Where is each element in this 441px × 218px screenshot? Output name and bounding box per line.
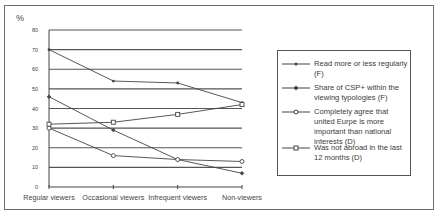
y-tick-label: 30 (32, 125, 38, 131)
legend-label: Share of CSP+ within the viewing typolog… (314, 83, 410, 103)
legend-label: Completely agree that united Eurpe is mo… (314, 107, 410, 147)
y-tick-label: 40 (32, 106, 38, 112)
square-marker-icon (282, 143, 310, 153)
y-tick-label: 0 (35, 184, 38, 190)
series-line (49, 50, 242, 103)
legend: Read more or less regularly (F) Share of… (277, 50, 411, 176)
y-tick-label: 10 (32, 164, 38, 170)
legend-label: Read more or less regularly (F) (314, 59, 410, 79)
y-axis-ticks: 01020304050607080 (32, 27, 38, 190)
series-line (49, 105, 242, 125)
x-tick-label: Infrequent viewers (148, 193, 207, 202)
x-tick-label: Regular viewers (23, 193, 75, 202)
y-tick-label: 80 (32, 27, 38, 33)
legend-label: Was not abroad in the last 12 months (D) (314, 143, 410, 163)
y-tick-label: 20 (32, 145, 38, 151)
x-tick-label: Occasional viewers (82, 193, 144, 202)
circle-marker-icon (282, 107, 310, 117)
y-tick-label: 60 (32, 66, 38, 72)
diamond-marker-icon (282, 83, 310, 93)
y-tick-label: 50 (32, 86, 38, 92)
dot-marker-icon (282, 59, 310, 69)
x-axis-ticks: Regular viewersOccasional viewersInfrequ… (23, 185, 262, 202)
x-tick-label: Non-viewers (222, 193, 262, 202)
y-unit-label: % (16, 13, 24, 23)
gridlines (49, 30, 242, 187)
y-tick-label: 70 (32, 47, 38, 53)
data-series (47, 48, 244, 175)
